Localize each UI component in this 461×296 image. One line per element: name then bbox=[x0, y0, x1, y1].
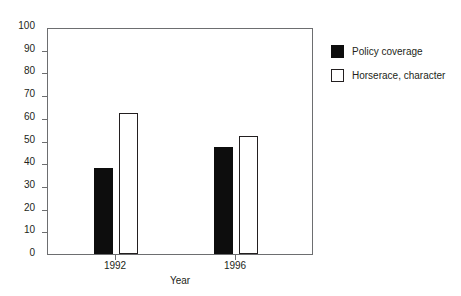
x-axis-tick-label: 1996 bbox=[205, 260, 265, 272]
y-axis-tick-label: 50 bbox=[24, 135, 35, 145]
y-axis-tick-label: 0 bbox=[29, 248, 35, 258]
x-axis-title: Year bbox=[47, 275, 313, 287]
legend-swatch-2 bbox=[331, 69, 344, 82]
bar-chart-figure: 0102030405060708090100 Year Policy cover… bbox=[0, 0, 461, 296]
bar-1992-2 bbox=[119, 113, 138, 254]
x-axis-tick-label: 1992 bbox=[85, 260, 145, 272]
legend-label: Horserace, character bbox=[352, 70, 445, 82]
y-axis-tick-label: 40 bbox=[24, 157, 35, 167]
y-axis-tick-label: 30 bbox=[24, 180, 35, 190]
bar-1996-2 bbox=[239, 136, 258, 254]
legend-item: Policy coverage bbox=[331, 45, 459, 58]
legend-label: Policy coverage bbox=[352, 46, 423, 58]
bar-1992-1 bbox=[94, 168, 113, 254]
y-axis-tick-label: 80 bbox=[24, 66, 35, 76]
y-axis-tick-label: 90 bbox=[24, 44, 35, 54]
y-axis-tick-label: 70 bbox=[24, 89, 35, 99]
y-axis-tick-label: 10 bbox=[24, 225, 35, 235]
legend: Policy coverageHorserace, character bbox=[331, 45, 459, 93]
y-axis: 0102030405060708090100 bbox=[0, 28, 47, 255]
bar-1996-1 bbox=[214, 147, 233, 254]
y-axis-tick-label: 100 bbox=[18, 21, 35, 31]
y-axis-tick-label: 20 bbox=[24, 203, 35, 213]
plot-area bbox=[47, 28, 313, 255]
y-axis-tick-label: 60 bbox=[24, 112, 35, 122]
legend-swatch-1 bbox=[331, 45, 344, 58]
legend-item: Horserace, character bbox=[331, 69, 459, 82]
